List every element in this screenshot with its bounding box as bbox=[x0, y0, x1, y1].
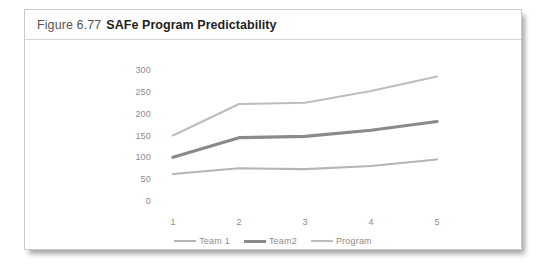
x-axis-tick-labels: 12345 bbox=[25, 217, 521, 233]
legend-swatch-icon bbox=[311, 240, 333, 242]
figure-caption: Figure 6.77SAFe Program Predictability bbox=[25, 10, 521, 40]
x-axis-tick: 5 bbox=[422, 217, 452, 227]
x-axis-tick: 3 bbox=[290, 217, 320, 227]
legend-item[interactable]: Team2 bbox=[244, 236, 297, 246]
figure-card: Figure 6.77SAFe Program Predictability 0… bbox=[24, 9, 522, 250]
line-chart-svg bbox=[25, 41, 521, 216]
x-axis-tick: 1 bbox=[158, 217, 188, 227]
figure-number: Figure 6.77 bbox=[37, 18, 101, 32]
legend-swatch-icon bbox=[174, 240, 196, 242]
page-title: SAFe Program Predictability bbox=[106, 18, 276, 32]
x-axis-tick: 2 bbox=[224, 217, 254, 227]
legend-label: Program bbox=[336, 236, 372, 246]
legend-swatch-icon bbox=[244, 240, 266, 243]
legend-item[interactable]: Program bbox=[311, 236, 372, 246]
legend-label: Team 1 bbox=[199, 236, 230, 246]
legend-item[interactable]: Team 1 bbox=[174, 236, 230, 246]
plot-wrap: 050100150200250300 bbox=[25, 41, 521, 216]
series-line bbox=[173, 160, 437, 174]
chart-area: 050100150200250300 12345 Team 1Team2Prog… bbox=[25, 41, 521, 249]
x-axis-tick: 4 bbox=[356, 217, 386, 227]
chart-legend: Team 1Team2Program bbox=[25, 233, 521, 249]
legend-label: Team2 bbox=[269, 236, 297, 246]
series-line bbox=[173, 122, 437, 158]
